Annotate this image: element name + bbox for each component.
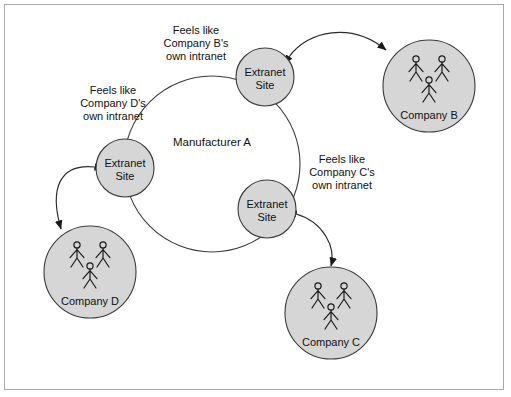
stick-figure-head (413, 56, 419, 62)
note-company-d: Feels likeCompany D'sown intranet (80, 84, 146, 122)
company-label: Company D (61, 295, 119, 307)
company-label: Company B (400, 109, 457, 121)
note-line: Feels like (90, 84, 136, 96)
extranet-label-line2: Site (256, 79, 275, 91)
note-company-b: Feels likeCompany B'sown intranet (163, 24, 229, 62)
note-line: Company B's (163, 37, 229, 49)
stick-figure-head (341, 283, 347, 289)
stick-figure-head (328, 304, 334, 310)
note-line: own intranet (312, 179, 372, 191)
extranet-network-diagram: Manufacturer A Company B Company D (0, 0, 511, 397)
connector-extranet-left-to-company-d[interactable] (56, 167, 95, 229)
diagram-page: Manufacturer A Company B Company D (0, 0, 511, 397)
extranet-node-top[interactable]: Extranet Site (236, 48, 294, 106)
stick-figure-head (315, 283, 321, 289)
stick-figure-head (426, 77, 432, 83)
extranet-node-left[interactable]: Extranet Site (96, 139, 154, 197)
extranet-label-line2: Site (116, 170, 135, 182)
note-line: Feels like (173, 24, 219, 36)
note-line: Feels like (319, 153, 365, 165)
stick-figure-head (74, 242, 80, 248)
connector-extranet-top-to-company-b[interactable] (289, 32, 386, 57)
note-line: own intranet (166, 50, 226, 62)
note-line: own intranet (83, 110, 143, 122)
extranet-label-line1: Extranet (247, 198, 288, 210)
stick-figure-head (100, 242, 106, 248)
note-line: Company D's (80, 97, 146, 109)
company-node-d[interactable]: Company D (44, 226, 136, 318)
connector-extranet-bottom-to-company-c[interactable] (296, 214, 332, 266)
extranet-label-line1: Extranet (245, 66, 286, 78)
manufacturer-boundary-label: Manufacturer A (173, 136, 251, 148)
extranet-label-line1: Extranet (105, 157, 146, 169)
company-node-c[interactable]: Company C (285, 267, 377, 359)
company-node-b[interactable]: Company B (383, 40, 475, 132)
note-company-c: Feels likeCompany C'sown intranet (309, 153, 375, 191)
stick-figure-head (87, 263, 93, 269)
note-line: Company C's (309, 166, 375, 178)
extranet-node-bottom[interactable]: Extranet Site (238, 180, 296, 238)
stick-figure-head (439, 56, 445, 62)
company-label: Company C (302, 336, 360, 348)
extranet-label-line2: Site (258, 211, 277, 223)
